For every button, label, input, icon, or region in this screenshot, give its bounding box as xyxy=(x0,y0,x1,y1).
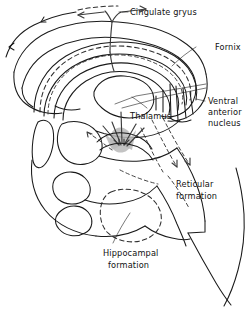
brainstem-outline xyxy=(145,148,244,306)
label-hippocampal-formation-line1: Hippocampal xyxy=(103,248,158,258)
basal-nuclei-outlines xyxy=(32,120,180,237)
brain-diagram-canvas: Cingulate gryus Fornix Ventral anterior … xyxy=(0,0,249,309)
label-fornix: Fornix xyxy=(215,42,241,52)
label-ventral-anterior-nucleus-line1: Ventral xyxy=(208,96,238,106)
reticular-formation-arrows xyxy=(87,118,190,208)
label-cingulate-gyrus: Cingulate gryus xyxy=(130,7,197,17)
label-thalamus: Thalamus xyxy=(129,111,171,121)
label-reticular-formation-line1: Reticular xyxy=(176,179,214,189)
label-ventral-anterior-nucleus-line3: nucleus xyxy=(208,118,241,128)
label-reticular-formation-line2: formation xyxy=(176,191,217,201)
label-ventral-anterior-nucleus-line2: anterior xyxy=(208,107,242,117)
limbic-system-figure: Cingulate gryus Fornix Ventral anterior … xyxy=(0,0,249,309)
hippocampal-formation-outline xyxy=(100,189,161,242)
label-hippocampal-formation-line2: formation xyxy=(108,260,149,270)
